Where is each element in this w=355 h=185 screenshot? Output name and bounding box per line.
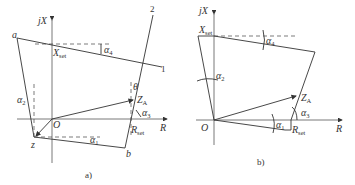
oz-vector <box>36 119 52 136</box>
r-axis-label: R <box>159 122 166 133</box>
alpha2-arc <box>197 79 218 81</box>
r-set-label: Rset <box>291 124 306 136</box>
alpha2-label: α2 <box>216 70 225 82</box>
point-z-label: z <box>30 139 35 150</box>
origin-label: O <box>53 119 60 130</box>
x-set-label: Xset <box>198 24 213 36</box>
za-vector <box>52 100 133 119</box>
jx-axis-label: jX <box>36 15 48 26</box>
line-2-label: 2 <box>150 4 155 14</box>
point-b-label: b <box>126 148 131 159</box>
impedance-diagrams: jX R O a b z 1 2 Xset Rset ZA θ α1 α2 α3… <box>0 0 355 185</box>
figure-a: jX R O a b z 1 2 Xset Rset ZA θ α1 α2 α3… <box>12 4 167 180</box>
za-label: ZA <box>301 92 312 104</box>
alpha3-label: α3 <box>301 107 310 119</box>
alpha4-label: α4 <box>104 44 113 56</box>
r-axis-label: R <box>335 123 342 134</box>
alpha3-marker <box>136 110 141 117</box>
figure-a-caption: a) <box>85 170 92 180</box>
alpha2-label: α2 <box>17 94 26 106</box>
line-1-label: 1 <box>161 64 166 74</box>
theta-label: θ <box>133 81 138 92</box>
figure-b-caption: b) <box>257 157 265 167</box>
figure-b: jX R O Xset Rset ZA α1 α2 α3 α4 b) <box>196 5 342 167</box>
za-vector <box>214 96 296 120</box>
alpha1-arc <box>272 114 274 133</box>
point-a-label: a <box>12 29 17 40</box>
alpha4-label: α4 <box>266 35 275 47</box>
alpha4-arc <box>263 30 265 50</box>
x-set-label: Xset <box>52 47 67 59</box>
alpha1-label: α1 <box>276 119 285 131</box>
za-label: ZA <box>137 94 148 106</box>
alpha1-label: α1 <box>90 134 99 146</box>
alpha3-label: α3 <box>142 107 151 119</box>
origin-label: O <box>201 122 208 133</box>
line-1 <box>17 38 162 67</box>
jx-axis-label: jX <box>197 5 209 16</box>
svg-text:jX: jX <box>36 15 48 26</box>
r-set-label: Rset <box>130 124 145 136</box>
